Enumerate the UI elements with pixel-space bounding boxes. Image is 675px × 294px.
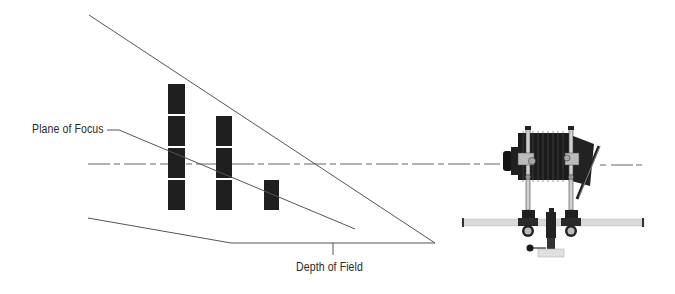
near-limit-line: [88, 218, 435, 243]
depth-of-field-wedge: [88, 15, 435, 255]
view-camera-icon: [462, 126, 644, 257]
subject-blocks: [168, 84, 279, 210]
far-limit-line: [89, 15, 435, 243]
subject-column-near: [168, 84, 185, 210]
diagram-canvas: [0, 0, 675, 294]
plane-of-focus-label: Plane of Focus: [32, 122, 104, 136]
depth-of-field-label: Depth of Field: [296, 260, 363, 274]
subject-column-middle: [216, 116, 232, 210]
subject-column-far: [264, 180, 279, 210]
